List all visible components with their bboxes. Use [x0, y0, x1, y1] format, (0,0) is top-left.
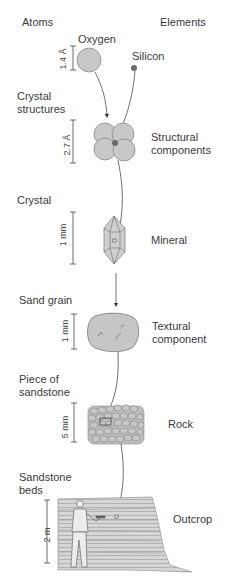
- quartz-crystal: [104, 216, 125, 264]
- oxygen-atom: [77, 48, 101, 72]
- sand-grain: [88, 313, 139, 352]
- scale-bar-oxygen: [70, 46, 76, 70]
- scale-bar-structure: [70, 120, 76, 163]
- scale-bar-outcrop: [44, 500, 50, 563]
- hierarchy-illustration: [0, 0, 234, 586]
- silicon-atom: [131, 65, 137, 71]
- scale-bar-sand-grain: [71, 314, 77, 349]
- sandstone-piece: [88, 405, 144, 444]
- scale-bar-sandstone: [71, 403, 77, 442]
- scale-bar-crystal: [70, 212, 76, 264]
